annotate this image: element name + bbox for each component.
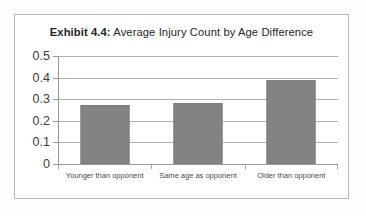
figure-root: Exhibit 4.4: Average Injury Count by Age… [0,0,366,216]
x-axis-labels: Younger than opponent Same age as oppone… [58,171,338,185]
chart-title: Exhibit 4.4: Average Injury Count by Age… [15,26,348,38]
bar-slot-same-age-as-opponent [151,56,244,164]
x-tick-mark-0 [58,165,59,169]
y-tick-label-0.2: 0.2 [33,115,50,128]
x-category-label-same-age-as-opponent: Same age as opponent [151,171,244,180]
x-category-label-younger-than-opponent: Younger than opponent [58,171,151,180]
bar-slot-younger-than-opponent [58,56,151,164]
bar-younger-than-opponent[interactable] [80,105,129,164]
y-tick-label-0: 0 [43,158,50,171]
x-tick-mark-2 [245,165,246,169]
x-category-label-older-than-opponent: Older than opponent [245,171,338,180]
y-axis-labels: 0.5 0.4 0.3 0.2 0.1 0 [15,56,58,165]
x-tick-mark-1 [151,165,152,169]
x-axis-ticks [58,165,338,170]
bar-slot-older-than-opponent [245,56,338,164]
chart-title-text: Average Injury Count by Age Difference [111,26,314,38]
bar-older-than-opponent[interactable] [267,80,316,164]
y-tick-label-0.1: 0.1 [33,136,50,149]
bar-series [58,56,338,164]
x-tick-mark-3 [337,165,338,169]
exhibit-frame: Exhibit 4.4: Average Injury Count by Age… [14,14,349,199]
chart-title-prefix: Exhibit 4.4: [50,26,111,38]
y-tick-label-0.4: 0.4 [33,72,50,85]
y-tick-label-0.5: 0.5 [33,50,50,63]
bar-same-age-as-opponent[interactable] [173,103,222,164]
y-tick-label-0.3: 0.3 [33,93,50,106]
